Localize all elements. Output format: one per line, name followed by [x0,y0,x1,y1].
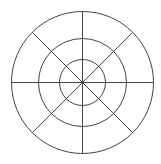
spoke-225deg [32,83,82,133]
radial-spokes [12,12,154,154]
spoke-315deg [83,83,133,133]
spoke-45deg [83,32,133,82]
polar-grid-diagram [0,0,161,164]
polar-grid-svg [0,0,161,164]
spoke-135deg [32,32,82,82]
